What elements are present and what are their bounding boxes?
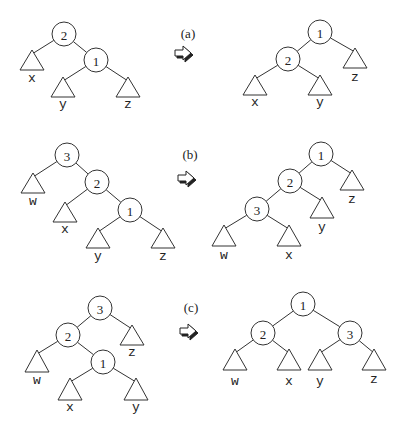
tree-after-case-2: wxyz123 xyxy=(223,292,386,389)
tree-rotation-diagram: (a)xyz21zxy12(b)wxyz321zywx123(c)zwxy321… xyxy=(0,0,408,431)
subtree-y-triangle-icon xyxy=(308,75,332,95)
edge-2-x xyxy=(255,65,278,79)
edge-2-1 xyxy=(106,190,121,202)
subtree-y-triangle-icon xyxy=(310,197,334,218)
subtree-label-z: z xyxy=(159,249,167,264)
subtree-label-z: z xyxy=(351,70,359,85)
subtree-x-triangle-icon xyxy=(277,349,301,370)
node-label-1: 1 xyxy=(127,204,134,219)
subtree-w-triangle-icon xyxy=(25,350,49,372)
subtree-label-y: y xyxy=(94,249,102,264)
subtree-label-y: y xyxy=(59,97,67,112)
edge-2-x xyxy=(273,340,289,353)
node-label-3: 3 xyxy=(64,149,71,164)
subtree-x-triangle-icon xyxy=(20,50,44,70)
subtree-label-y: y xyxy=(132,400,140,415)
subtree-label-z: z xyxy=(370,372,378,387)
node-label-2: 2 xyxy=(94,176,101,191)
subtree-w-triangle-icon xyxy=(212,225,236,246)
edge-1-z xyxy=(106,67,128,81)
right-arrow-icon xyxy=(180,324,198,340)
subtree-y-triangle-icon xyxy=(51,77,75,97)
node-label-3: 3 xyxy=(347,327,354,342)
subtree-label-w: w xyxy=(29,194,37,209)
subtree-y-triangle-icon xyxy=(308,349,332,370)
subtree-x-triangle-icon xyxy=(277,225,301,246)
node-label-2: 2 xyxy=(287,175,294,190)
edge-3-z xyxy=(359,341,374,353)
tree-after-case-0: zxy12 xyxy=(243,20,367,110)
subtree-label-x: x xyxy=(66,400,74,415)
subtree-x-triangle-icon xyxy=(58,378,82,400)
subtree-label-y: y xyxy=(316,95,324,110)
subtree-label-z: z xyxy=(348,192,356,207)
case-label: (a) xyxy=(181,26,195,41)
edge-3-2 xyxy=(76,163,88,174)
subtree-label-w: w xyxy=(33,373,41,388)
edge-2-y xyxy=(298,65,320,79)
right-arrow-icon xyxy=(178,171,196,187)
subtree-x-triangle-icon xyxy=(243,75,267,95)
edge-1-2 xyxy=(273,311,294,326)
subtree-label-w: w xyxy=(220,248,228,263)
node-label-2: 2 xyxy=(65,329,72,344)
subtree-w-triangle-icon xyxy=(21,173,45,193)
edge-1-z xyxy=(331,161,352,174)
node-label-2: 2 xyxy=(61,28,68,43)
edge-3-w xyxy=(33,162,57,177)
subtree-label-x: x xyxy=(28,71,36,86)
edge-3-y xyxy=(320,340,340,353)
case-label: (b) xyxy=(182,147,197,162)
edge-2-3 xyxy=(266,189,281,201)
node-label-1: 1 xyxy=(300,298,307,313)
subtree-z-triangle-icon xyxy=(151,228,175,248)
edge-2-w xyxy=(235,340,253,353)
subtree-z-triangle-icon xyxy=(340,170,364,190)
tree-before-case-2: zwxy321 xyxy=(25,296,148,415)
tree-before-case-0: xyz21 xyxy=(20,22,140,112)
subtree-label-x: x xyxy=(61,222,69,237)
node-label-3: 3 xyxy=(97,302,104,317)
node-label-2: 2 xyxy=(260,327,267,342)
node-label-2: 2 xyxy=(285,53,292,68)
edge-3-x xyxy=(267,215,289,229)
subtree-label-x: x xyxy=(251,95,259,110)
edge-1-y xyxy=(63,66,86,81)
subtree-label-w: w xyxy=(231,374,239,389)
node-label-1: 1 xyxy=(93,54,100,69)
edge-1-y xyxy=(113,368,136,382)
edge-1-z xyxy=(140,217,163,232)
subtree-z-triangle-icon xyxy=(116,77,140,97)
subtree-label-y: y xyxy=(316,374,324,389)
edge-3-z xyxy=(110,315,132,329)
subtree-label-y: y xyxy=(318,220,326,235)
subtree-label-x: x xyxy=(285,374,293,389)
edge-2-y xyxy=(300,187,322,201)
subtree-y-triangle-icon xyxy=(86,228,110,248)
edge-3-w xyxy=(224,215,247,229)
edge-1-x xyxy=(70,368,93,382)
tree-after-case-1: zywx123 xyxy=(212,142,364,263)
edge-3-2 xyxy=(77,316,91,328)
edge-1-y xyxy=(98,217,120,232)
node-label-3: 3 xyxy=(254,203,261,218)
edge-1-z xyxy=(330,38,355,52)
edge-2-x xyxy=(32,40,54,54)
edge-1-2 xyxy=(297,40,311,52)
subtree-label-z: z xyxy=(124,97,132,112)
tree-before-case-1: wxyz321 xyxy=(21,143,175,264)
subtree-x-triangle-icon xyxy=(53,202,77,222)
right-arrow-icon xyxy=(175,46,193,62)
edge-1-3 xyxy=(313,310,340,326)
node-label-1: 1 xyxy=(317,26,324,41)
subtree-y-triangle-icon xyxy=(124,378,148,400)
edge-2-1 xyxy=(73,42,86,53)
edge-2-w xyxy=(37,341,58,354)
edge-1-2 xyxy=(299,162,312,173)
case-label: (c) xyxy=(184,300,198,315)
subtree-w-triangle-icon xyxy=(223,349,247,370)
subtree-z-triangle-icon xyxy=(343,48,367,68)
subtree-z-triangle-icon xyxy=(120,325,144,345)
node-label-1: 1 xyxy=(100,356,107,371)
edge-2-x xyxy=(65,189,87,206)
